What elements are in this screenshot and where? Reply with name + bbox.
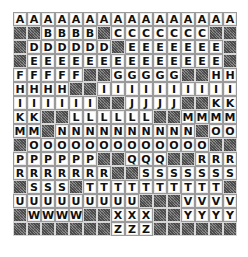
blank-tile — [13, 222, 27, 236]
letter-tile: K — [27, 110, 41, 124]
letter-tile: O — [97, 138, 111, 152]
letter-tile: H — [209, 68, 223, 82]
letter-tile: R — [41, 166, 55, 180]
letter-tile: U — [125, 194, 139, 208]
blank-tile — [97, 68, 111, 82]
letter-tile: A — [83, 12, 97, 26]
blank-tile — [209, 138, 223, 152]
letter-tile: E — [167, 40, 181, 54]
blank-tile — [195, 68, 209, 82]
letter-tile: P — [41, 152, 55, 166]
letter-tile: A — [97, 12, 111, 26]
letter-tile: O — [139, 138, 153, 152]
letter-tile: E — [167, 54, 181, 68]
letter-tile: E — [125, 40, 139, 54]
letter-tile: U — [13, 194, 27, 208]
letter-tile: X — [139, 208, 153, 222]
letter-tile: E — [181, 40, 195, 54]
letter-tile: X — [125, 208, 139, 222]
letter-tile: L — [139, 110, 153, 124]
letter-tile: I — [69, 96, 83, 110]
letter-tile: V — [181, 194, 195, 208]
letter-tile: S — [139, 166, 153, 180]
blank-tile — [13, 40, 27, 54]
blank-tile — [209, 26, 223, 40]
letter-tile: W — [41, 208, 55, 222]
letter-tile: F — [69, 68, 83, 82]
letter-tile: R — [27, 166, 41, 180]
blank-tile — [111, 96, 125, 110]
letter-tile: O — [181, 138, 195, 152]
letter-tile: R — [209, 152, 223, 166]
letter-tile: D — [55, 40, 69, 54]
letter-tile: X — [111, 208, 125, 222]
letter-tile: Q — [139, 152, 153, 166]
letter-tile: A — [27, 12, 41, 26]
letter-tile: N — [167, 124, 181, 138]
letter-tile: R — [83, 166, 97, 180]
letter-tile: L — [125, 110, 139, 124]
blank-tile — [111, 152, 125, 166]
letter-tile: R — [13, 166, 27, 180]
letter-tile: K — [223, 96, 237, 110]
letter-tile: A — [223, 12, 237, 26]
letter-tile: J — [167, 96, 181, 110]
blank-tile — [223, 180, 237, 194]
letter-tile: U — [41, 194, 55, 208]
letter-tile: M — [13, 124, 27, 138]
letter-tile: E — [209, 40, 223, 54]
letter-tile: V — [195, 194, 209, 208]
letter-tile-grid: AAAAAAAAAAAAAAAABBBBCCCCCCCDDDDDDEEEEEEE… — [13, 12, 237, 236]
blank-tile — [69, 222, 83, 236]
letter-tile: R — [223, 152, 237, 166]
letter-tile: W — [69, 208, 83, 222]
letter-tile: A — [181, 12, 195, 26]
blank-tile — [27, 26, 41, 40]
letter-tile: P — [55, 152, 69, 166]
letter-tile: D — [83, 40, 97, 54]
blank-tile — [167, 222, 181, 236]
letter-tile: Z — [125, 222, 139, 236]
letter-tile: L — [111, 110, 125, 124]
blank-tile — [223, 138, 237, 152]
letter-tile: W — [27, 208, 41, 222]
blank-tile — [167, 194, 181, 208]
blank-tile — [97, 152, 111, 166]
letter-tile: N — [69, 124, 83, 138]
letter-tile: H — [223, 68, 237, 82]
letter-tile: E — [125, 54, 139, 68]
letter-tile: G — [167, 68, 181, 82]
letter-tile: E — [83, 54, 97, 68]
letter-tile: D — [97, 40, 111, 54]
letter-tile: R — [97, 166, 111, 180]
letter-tile: I — [195, 82, 209, 96]
letter-tile: I — [83, 96, 97, 110]
letter-tile: D — [69, 40, 83, 54]
letter-tile: G — [139, 68, 153, 82]
letter-tile: C — [181, 26, 195, 40]
letter-tile: Y — [195, 208, 209, 222]
letter-tile: G — [111, 68, 125, 82]
letter-tile: J — [125, 96, 139, 110]
blank-tile — [181, 68, 195, 82]
letter-tile: B — [69, 26, 83, 40]
letter-tile: F — [41, 68, 55, 82]
letter-tile: K — [209, 96, 223, 110]
letter-tile: T — [111, 180, 125, 194]
letter-tile: A — [41, 12, 55, 26]
blank-tile — [195, 222, 209, 236]
blank-tile — [55, 222, 69, 236]
blank-tile — [153, 194, 167, 208]
letter-tile: A — [195, 12, 209, 26]
letter-tile: O — [195, 138, 209, 152]
blank-tile — [223, 222, 237, 236]
letter-tile: I — [97, 82, 111, 96]
blank-tile — [167, 208, 181, 222]
letter-tile: S — [41, 180, 55, 194]
letter-tile: I — [181, 82, 195, 96]
letter-tile: N — [125, 124, 139, 138]
letter-tile: T — [125, 180, 139, 194]
letter-tile: N — [55, 124, 69, 138]
blank-tile — [111, 166, 125, 180]
letter-tile: A — [111, 12, 125, 26]
